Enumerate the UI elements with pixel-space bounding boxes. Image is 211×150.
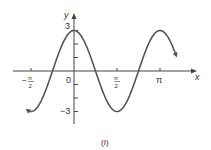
neg-half-pi-denominator: 2 [29,83,33,89]
caption: (I) [101,138,109,147]
y-tick-label-3: 3 [65,21,70,31]
y-axis-label: y [63,10,69,20]
y-tick-label-neg3: −3 [60,106,70,116]
pi-label: π [156,75,162,85]
neg-sign: − [22,76,27,85]
cosine-graph: y x 3 −3 0 − π 2 π 2 π (I) [0,0,211,150]
x-axis-label: x [194,72,200,82]
origin-label: 0 [66,75,71,85]
y-axis-arrow-icon [72,13,77,19]
neg-half-pi-numerator: π [28,75,32,81]
half-pi-numerator: π [114,75,118,81]
half-pi-denominator: 2 [115,83,119,89]
